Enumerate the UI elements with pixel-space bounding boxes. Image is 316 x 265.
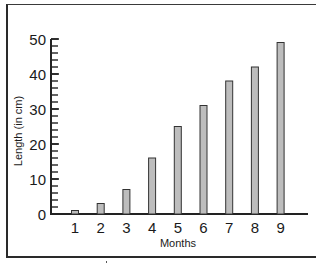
y-axis-title: Length (in cm) [12, 96, 24, 166]
x-tick-label: 2 [97, 219, 105, 236]
bars [72, 43, 285, 215]
bar-month-3 [123, 190, 130, 215]
bar-month-2 [97, 204, 104, 215]
y-tick-label: 40 [29, 66, 46, 83]
bar-month-5 [174, 127, 181, 215]
bar-month-4 [149, 158, 156, 214]
x-tick-label: 9 [276, 219, 284, 236]
x-axis-title: Months [160, 237, 197, 249]
x-axis: 123456789 [50, 214, 308, 236]
y-axis: 01020304050 [29, 31, 59, 223]
x-tick-label: 5 [174, 219, 182, 236]
y-tick-label: 20 [29, 136, 46, 153]
y-tick-label: 0 [38, 206, 46, 223]
bar-month-1 [72, 211, 79, 215]
y-tick-label: 50 [29, 31, 46, 48]
x-tick-label: 4 [148, 219, 156, 236]
bar-month-8 [251, 67, 258, 214]
x-tick-label: 8 [251, 219, 259, 236]
x-tick-label: 1 [71, 219, 79, 236]
y-tick-label: 30 [29, 101, 46, 118]
x-tick-label: 6 [199, 219, 207, 236]
bar-month-6 [200, 106, 207, 215]
bar-month-7 [226, 81, 233, 214]
bar-chart: 01020304050 123456789 Months Length (in … [0, 0, 316, 265]
x-tick-label: 3 [122, 219, 130, 236]
bar-month-9 [277, 43, 284, 215]
x-tick-label: 7 [225, 219, 233, 236]
y-tick-label: 10 [29, 171, 46, 188]
